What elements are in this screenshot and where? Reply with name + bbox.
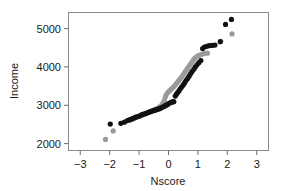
data-point	[171, 99, 176, 104]
data-point	[205, 51, 210, 56]
x-axis-title: Nscore	[151, 175, 186, 187]
data-point	[212, 42, 217, 47]
y-axis-tick-label: 4000	[37, 61, 61, 73]
y-axis-tick-label: 2000	[37, 138, 61, 150]
data-point	[218, 39, 223, 44]
data-point	[111, 128, 116, 133]
data-point	[229, 31, 234, 36]
chart-figure: 2000300040005000 −3−2−10123 Nscore Incom…	[0, 0, 283, 191]
scatter-plot-svg: 2000300040005000 −3−2−10123 Nscore Incom…	[0, 0, 283, 191]
x-axis-tick-label: 1	[195, 158, 201, 170]
data-point	[229, 17, 234, 22]
y-axis-tick-label: 3000	[37, 99, 61, 111]
data-point	[198, 58, 203, 63]
y-axis-tick-label: 5000	[37, 23, 61, 35]
data-point	[103, 137, 108, 142]
x-axis-tick-label: −2	[103, 158, 116, 170]
data-point	[108, 121, 113, 126]
x-axis-tick-label: 0	[165, 158, 171, 170]
data-point	[223, 22, 228, 27]
x-axis-tick-label: −3	[74, 158, 87, 170]
x-axis-tick-label: −1	[133, 158, 146, 170]
y-axis-title: Income	[8, 63, 20, 99]
x-axis-tick-label: 2	[224, 158, 230, 170]
x-axis-tick-label: 3	[254, 158, 260, 170]
